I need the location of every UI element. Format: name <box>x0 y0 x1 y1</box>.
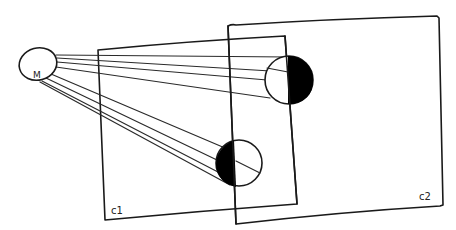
frame-c1 <box>98 36 297 220</box>
rays-to-lower-sphere <box>40 74 230 185</box>
light-source-label: M <box>33 70 41 80</box>
lower-sphere <box>216 140 262 187</box>
diagram-canvas: M c1 c2 <box>0 0 456 230</box>
frame-c2 <box>228 16 443 224</box>
c2-left-edge-overlay <box>228 26 236 224</box>
light-source-m: M <box>16 44 61 85</box>
frame-c2-label: c2 <box>419 191 431 202</box>
frame-c1-label: c1 <box>111 205 123 216</box>
